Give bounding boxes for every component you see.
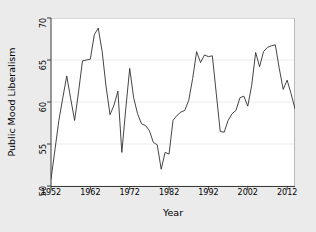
x-tick-label-1972: 1972 [120, 188, 140, 197]
x-axis-tick-labels: 1952196219721982199220022012 [51, 188, 295, 202]
x-tick-label-1982: 1982 [159, 188, 179, 197]
y-tick-label-65: 65 [22, 55, 46, 65]
plot-panel [51, 18, 295, 186]
y-tick-label-70: 70 [22, 13, 46, 23]
line-chart-svg [51, 18, 295, 186]
data-series-group [51, 28, 295, 179]
x-tick-label-2012: 2012 [277, 188, 297, 197]
y-axis-title: Public Mood Liberalism [6, 47, 17, 156]
y-tick-label-60: 60 [22, 97, 46, 107]
y-axis-title-container: Public Mood Liberalism [4, 18, 18, 186]
y-tick-text: 60 [39, 102, 49, 112]
x-tick-label-2002: 2002 [238, 188, 258, 197]
y-tick-text: 70 [39, 18, 49, 28]
x-tick-label-1992: 1992 [198, 188, 218, 197]
series-line-public-mood-liberalism [51, 28, 295, 179]
x-tick-label-1952: 1952 [41, 188, 61, 197]
y-tick-label-55: 55 [22, 139, 46, 149]
y-tick-text: 65 [39, 60, 49, 70]
y-axis-tick-labels: 5055606570 [22, 18, 46, 186]
figure-container: Public Mood Liberalism 5055606570 195219… [0, 0, 316, 232]
y-tick-text: 55 [39, 144, 49, 154]
gridlines [51, 18, 295, 186]
x-tick-label-1962: 1962 [80, 188, 100, 197]
x-axis-title: Year [51, 207, 295, 218]
